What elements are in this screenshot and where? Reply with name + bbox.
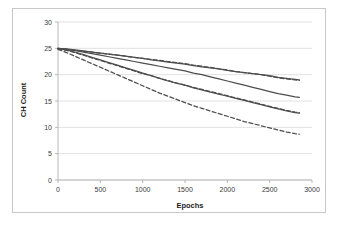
x-tick-label-0: 0 [56,186,60,193]
gridlines [58,22,312,180]
y-tick-label-20: 20 [44,71,52,78]
y-tick-label-15: 15 [44,98,52,105]
x-tick-label-1000: 1000 [135,186,151,193]
x-tick-label-3000: 3000 [304,186,320,193]
x-tick-label-2000: 2000 [220,186,236,193]
series-line-series-3 [58,48,299,97]
y-axis-title: CH Count [19,82,28,117]
x-axis-title: Epochs [176,201,203,210]
chart-figure: 051015202530 050010001500200025003000 CH… [0,0,340,230]
series-line-series-4 [58,48,299,113]
y-tick-label-30: 30 [44,19,52,26]
x-axis-tick-labels: 050010001500200025003000 [56,186,320,193]
x-tick-label-1500: 1500 [177,186,193,193]
data-series-group [58,48,299,134]
x-tick-label-500: 500 [94,186,106,193]
y-axis-tick-labels: 051015202530 [44,19,52,184]
x-tick-label-2500: 2500 [262,186,278,193]
series-line-series-6 [58,49,299,134]
line-chart-canvas: 051015202530 050010001500200025003000 CH… [0,0,340,230]
y-tick-label-25: 25 [44,45,52,52]
y-tick-label-0: 0 [48,177,52,184]
y-tick-label-5: 5 [48,150,52,157]
y-tick-label-10: 10 [44,124,52,131]
